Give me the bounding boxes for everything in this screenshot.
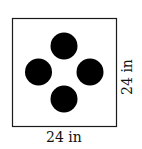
dot-top [51, 33, 78, 60]
height-label: 24 in [119, 59, 135, 95]
width-label: 24 in [46, 129, 82, 145]
diagram: 24 in 24 in [0, 0, 142, 149]
dot-left [25, 59, 52, 86]
dot-bottom [51, 86, 78, 113]
dot-right [77, 59, 104, 86]
